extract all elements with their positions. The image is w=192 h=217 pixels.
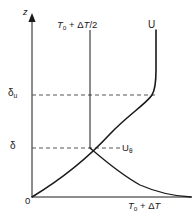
- diagram-canvas: [0, 0, 192, 217]
- delta-tick-label: δ: [10, 141, 16, 151]
- velocity-profile-curve: [32, 30, 156, 197]
- boundary-layer-diagram: z To + ΔT/2 U δu δ Uθ 0 To + ΔT: [0, 0, 192, 217]
- u-theta-label: Uθ: [122, 143, 132, 153]
- z-axis-arrowhead: [28, 13, 35, 22]
- x-axis-temperature-label: To + ΔT: [128, 201, 160, 211]
- delta-u-tick-label: δu: [8, 88, 17, 98]
- origin-label: 0: [25, 196, 30, 206]
- free-stream-velocity-label: U: [148, 20, 155, 30]
- z-axis-label: z: [23, 8, 28, 17]
- mid-temperature-label: To + ΔT/2: [57, 20, 97, 30]
- temperature-profile-curve: [90, 148, 191, 197]
